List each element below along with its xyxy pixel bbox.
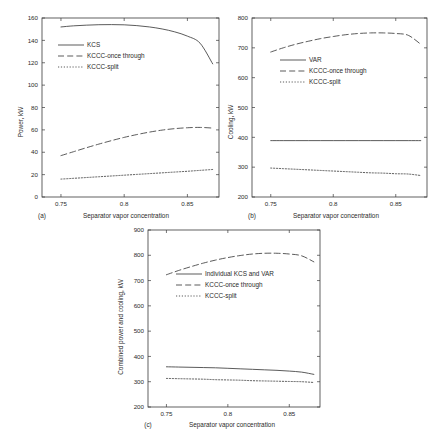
panel-c-plot: 2003004005006007008009000.750.80.85 Indi…: [112, 222, 327, 437]
series-line: [166, 378, 313, 382]
series-line: [61, 169, 213, 179]
y-tick-label: 600: [238, 74, 249, 81]
legend-label: KCCC-once through: [205, 281, 263, 289]
y-tick-label: 160: [28, 14, 39, 21]
y-tick-label: 500: [238, 104, 249, 111]
legend-label: KCCC-split: [87, 63, 119, 71]
panel-a-ylabel: Power, kW: [17, 106, 24, 138]
x-tick-label: 0.85: [181, 200, 194, 207]
x-tick-label: 0.8: [224, 410, 233, 417]
legend-label: KCCC-split: [309, 78, 341, 86]
panel-c-ylabel: Combined power and cooling, kW: [117, 278, 125, 375]
x-tick-label: 0.85: [283, 410, 296, 417]
legend-label: KCCC-once through: [87, 52, 145, 60]
y-tick-label: 600: [134, 302, 145, 309]
legend-label: KCS: [87, 41, 100, 48]
x-tick-label: 0.85: [390, 200, 403, 207]
panel-b-caption: (b): [248, 212, 256, 220]
y-tick-label: 300: [238, 163, 249, 170]
legend-label: VAR: [309, 56, 322, 63]
y-tick-label: 400: [134, 353, 145, 360]
panel-a-plot: 0204060801001201401600.750.80.85 KCSKCCC…: [14, 10, 224, 230]
panel-b: 2003004005006007008000.750.80.85 VARKCCC…: [222, 10, 432, 230]
y-tick-label: 0: [35, 193, 39, 200]
panel-a-caption: (a): [38, 212, 46, 220]
panel-b-ylabel: Cooling, kW: [227, 104, 235, 139]
y-tick-label: 20: [31, 171, 38, 178]
y-tick-label: 80: [31, 104, 38, 111]
x-tick-label: 0.75: [265, 200, 278, 207]
y-tick-label: 200: [238, 193, 249, 200]
series-line: [271, 168, 421, 175]
x-tick-label: 0.8: [329, 200, 338, 207]
y-tick-label: 300: [134, 378, 145, 385]
y-tick-label: 700: [238, 44, 249, 51]
y-tick-label: 500: [134, 327, 145, 334]
x-tick-label: 0.75: [160, 410, 173, 417]
x-tick-label: 0.75: [55, 200, 68, 207]
panel-c-xlabel: Separator vapor concentration: [189, 421, 275, 429]
figure-container: 0204060801001201401600.750.80.85 KCSKCCC…: [0, 0, 441, 441]
panel-a-xlabel: Separator vapor concentration: [83, 212, 169, 220]
panel-c-caption: (c): [144, 421, 151, 429]
panel-b-plot: 2003004005006007008000.750.80.85 VARKCCC…: [222, 10, 432, 230]
y-tick-label: 100: [28, 81, 39, 88]
y-tick-label: 900: [134, 226, 145, 233]
y-tick-label: 120: [28, 59, 39, 66]
series-line: [271, 33, 421, 52]
legend-label: KCCC-once through: [309, 67, 367, 75]
legend-label: Individual KCS and VAR: [205, 270, 274, 277]
y-tick-label: 800: [134, 251, 145, 258]
y-tick-label: 800: [238, 14, 249, 21]
x-tick-label: 0.8: [120, 200, 129, 207]
panel-b-xlabel: Separator vapor concentration: [293, 212, 379, 220]
series-line: [166, 367, 313, 375]
y-tick-label: 700: [134, 277, 145, 284]
y-tick-label: 140: [28, 37, 39, 44]
y-tick-label: 60: [31, 126, 38, 133]
panel-c: 2003004005006007008009000.750.80.85 Indi…: [112, 222, 327, 437]
legend-label: KCCC-split: [205, 292, 237, 300]
y-tick-label: 200: [134, 403, 145, 410]
panel-a: 0204060801001201401600.750.80.85 KCSKCCC…: [14, 10, 224, 230]
series-line: [61, 127, 213, 155]
y-tick-label: 40: [31, 148, 38, 155]
y-tick-label: 400: [238, 134, 249, 141]
